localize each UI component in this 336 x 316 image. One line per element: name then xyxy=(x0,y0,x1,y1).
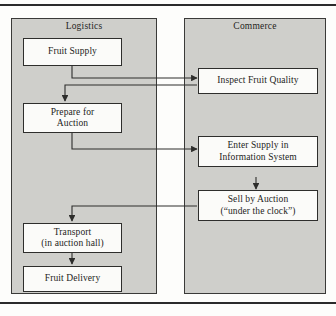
edge-supply-to-inspect xyxy=(72,66,197,78)
node-transport[interactable]: Transport (in auction hall) xyxy=(23,223,122,253)
node-sell-by-auction[interactable]: Sell by Auction (“under the clock”) xyxy=(198,190,318,221)
node-fruit-supply-line-1: Fruit Supply xyxy=(46,46,99,58)
node-fruit-delivery[interactable]: Fruit Delivery xyxy=(23,266,122,292)
node-inspect-fruit-quality-line-1: Inspect Fruit Quality xyxy=(215,75,300,87)
node-inspect-fruit-quality[interactable]: Inspect Fruit Quality xyxy=(198,68,318,94)
node-sell-by-auction-line-1: Sell by Auction xyxy=(226,194,291,206)
node-sell-by-auction-line-2: (“under the clock”) xyxy=(218,206,297,218)
node-enter-supply-line-2: Information System xyxy=(217,152,299,164)
node-fruit-supply[interactable]: Fruit Supply xyxy=(23,38,122,66)
node-enter-supply[interactable]: Enter Supply in Information System xyxy=(198,136,318,167)
edge-inspect-to-prepare xyxy=(65,85,197,101)
edge-prepare-to-enter xyxy=(72,133,197,149)
diagram-canvas: Logistics Commerce Fruit Supply Prepare xyxy=(0,0,336,316)
node-prepare-for-auction-line-1: Prepare for xyxy=(49,107,97,119)
node-fruit-delivery-line-1: Fruit Delivery xyxy=(43,273,103,285)
node-transport-line-2: (in auction hall) xyxy=(39,238,105,250)
node-transport-line-1: Transport xyxy=(52,227,94,239)
node-enter-supply-line-1: Enter Supply in xyxy=(225,140,290,152)
node-prepare-for-auction[interactable]: Prepare for Auction xyxy=(23,103,122,133)
node-prepare-for-auction-line-2: Auction xyxy=(55,118,90,130)
edge-sell-to-transport xyxy=(72,206,197,221)
